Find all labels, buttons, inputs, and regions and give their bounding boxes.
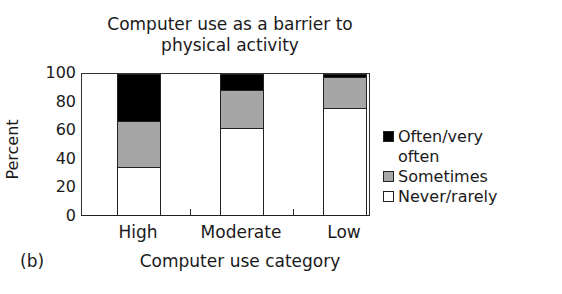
black-swatch-icon [383,131,394,142]
bar-segment [220,91,264,129]
bar-segment [323,109,367,215]
legend-item-sometimes: Sometimes [383,167,497,187]
legend-item-often: Often/veryoften [383,127,497,167]
x-tick-label: Moderate [186,222,296,242]
x-tick-label: Low [289,222,399,242]
y-tick-label: 0 [66,206,76,225]
y-tick-label: 100 [45,63,76,82]
bar-segment [323,78,367,109]
bar-segment [220,129,264,215]
y-tick-label: 20 [56,177,76,196]
x-tick [293,209,294,215]
legend-item-never: Never/rarely [383,187,497,207]
bar-low [323,74,367,215]
bar-high [117,74,161,215]
y-tick-labels: 020406080100 [30,0,76,294]
bar-segment [117,74,161,122]
y-axis-label: Percent [3,119,22,179]
y-tick-label: 40 [56,149,76,168]
legend-label-sometimes: Sometimes [398,167,488,187]
title-line-2: physical activity [90,35,370,56]
panel-label: (b) [20,251,44,271]
chart-title: Computer use as a barrier to physical ac… [90,14,370,56]
legend-label-often: Often/veryoften [398,127,483,167]
x-tick [190,209,191,215]
gray-swatch-icon [383,171,394,182]
bar-segment [117,122,161,169]
title-line-1: Computer use as a barrier to [90,14,370,35]
plot-area [81,73,370,216]
white-swatch-icon [383,191,394,202]
y-tick-label: 60 [56,120,76,139]
x-tick-label: High [83,222,193,242]
bar-moderate [220,74,264,215]
x-axis-label: Computer use category [130,251,350,271]
y-tick-label: 80 [56,92,76,111]
legend-label-never: Never/rarely [398,187,497,207]
bar-segment [220,74,264,91]
legend: Often/veryoften Sometimes Never/rarely [383,127,497,207]
bar-segment [117,168,161,215]
